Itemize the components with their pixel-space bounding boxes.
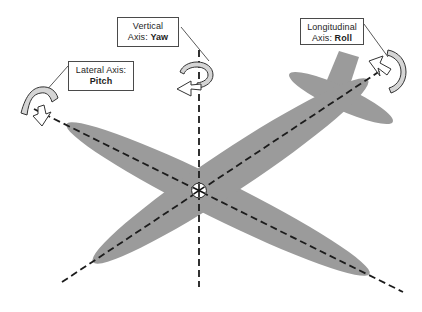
yaw-leader-line [181, 27, 209, 61]
vertical-axis-label-line2: Axis: Yaw [118, 32, 178, 43]
roll-leader-line [364, 24, 388, 57]
diagram-canvas [0, 0, 422, 312]
pitch-arrowhead [33, 105, 51, 126]
vertical-axis-label-box: Vertical Axis: Yaw [117, 17, 179, 47]
lateral-axis-label-line1: Lateral Axis: [69, 65, 133, 76]
pitch-rotation-arrow-icon [21, 87, 58, 126]
center-of-gravity-icon [192, 183, 207, 198]
longitudinal-axis-label-line2: Axis: Roll [301, 33, 363, 44]
lateral-axis-label-line2: Pitch [69, 76, 133, 87]
longitudinal-axis-label-line1: Longitudinal [301, 22, 363, 33]
vertical-axis-label-line1: Vertical [118, 21, 178, 32]
roll-arrowhead [369, 56, 391, 76]
yaw-rotation-arrow-icon [177, 62, 213, 96]
aircraft-axes-diagram: Vertical Axis: Yaw Lateral Axis: Pitch L… [0, 0, 422, 312]
longitudinal-axis-label-box: Longitudinal Axis: Roll [300, 18, 364, 45]
lateral-axis-label-box: Lateral Axis: Pitch [68, 61, 134, 91]
